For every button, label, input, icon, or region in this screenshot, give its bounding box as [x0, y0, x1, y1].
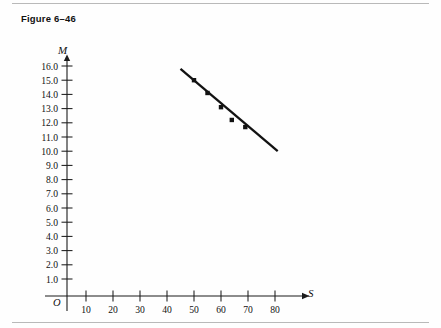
- axes-group: [45, 55, 310, 312]
- y-axis-tick-label: 14.0: [41, 89, 58, 100]
- tick-labels-group: 1.02.03.04.05.06.07.08.09.010.011.012.01…: [41, 61, 280, 316]
- y-axis-label: M: [58, 44, 67, 56]
- x-axis-tick-label: 30: [135, 304, 145, 315]
- data-point: [192, 78, 196, 82]
- y-axis-tick-label: 7.0: [46, 188, 58, 199]
- y-axis-tick-label: 6.0: [46, 203, 58, 214]
- x-axis-tick-label: 10: [81, 304, 91, 315]
- data-point: [230, 118, 234, 122]
- x-axis-tick-label: 80: [270, 304, 280, 315]
- y-axis-tick-label: 4.0: [46, 231, 58, 242]
- y-axis-tick-label: 10.0: [41, 146, 58, 157]
- y-axis-tick-label: 2.0: [46, 259, 58, 270]
- origin-label: O: [53, 297, 61, 308]
- x-axis-tick-label: 50: [189, 304, 199, 315]
- y-axis-tick-label: 13.0: [41, 103, 58, 114]
- data-point: [205, 91, 209, 95]
- scatter-plot: 1.02.03.04.05.06.07.08.09.010.011.012.01…: [0, 0, 441, 328]
- figure-page: Figure 6–46 1.02.03.04.05.06.07.08.09.01…: [0, 0, 441, 328]
- x-axis-tick-label: 60: [216, 304, 226, 315]
- data-point: [243, 125, 247, 129]
- y-axis-tick-label: 16.0: [41, 61, 58, 72]
- ticks-group: [62, 66, 276, 302]
- y-axis-tick-label: 12.0: [41, 117, 58, 128]
- y-axis-tick-label: 8.0: [46, 174, 58, 185]
- x-axis-tick-label: 40: [162, 304, 172, 315]
- x-axis-tick-label: 20: [108, 304, 118, 315]
- y-axis-tick-label: 15.0: [41, 75, 58, 86]
- data-point: [219, 105, 223, 109]
- x-axis-label: S: [308, 287, 314, 299]
- y-axis-tick-label: 11.0: [42, 132, 59, 143]
- y-axis-tick-label: 5.0: [46, 217, 58, 228]
- y-axis-tick-label: 1.0: [46, 274, 58, 285]
- y-axis-tick-label: 9.0: [46, 160, 58, 171]
- y-axis-tick-label: 3.0: [46, 245, 58, 256]
- x-axis-tick-label: 70: [243, 304, 253, 315]
